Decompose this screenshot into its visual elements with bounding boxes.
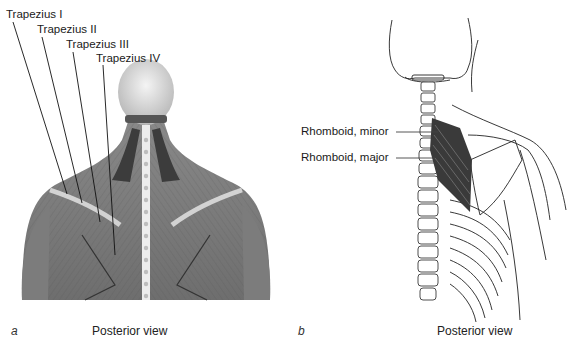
label-trapezius-4: Trapezius IV: [96, 53, 160, 65]
caption-b: Posterior view: [437, 324, 512, 338]
rhomboid-illustration: [290, 0, 572, 346]
caption-a: Posterior view: [92, 324, 167, 338]
label-trapezius-2: Trapezius II: [37, 24, 97, 36]
panel-b-rhomboids: Rhomboid, minor Rhomboid, major b Poster…: [290, 0, 572, 346]
head-outline: [389, 18, 471, 79]
panel-letter-a: a: [11, 324, 18, 338]
panel-a-trapezius: Trapezius I Trapezius II Trapezius III T…: [0, 0, 290, 346]
panel-letter-b: b: [298, 324, 305, 338]
label-trapezius-1: Trapezius I: [6, 9, 62, 21]
label-rhomboid-minor: Rhomboid, minor: [301, 126, 389, 138]
label-trapezius-3: Trapezius III: [66, 39, 129, 51]
label-rhomboid-major: Rhomboid, major: [301, 152, 389, 164]
spine-vertebrae: [418, 82, 438, 300]
